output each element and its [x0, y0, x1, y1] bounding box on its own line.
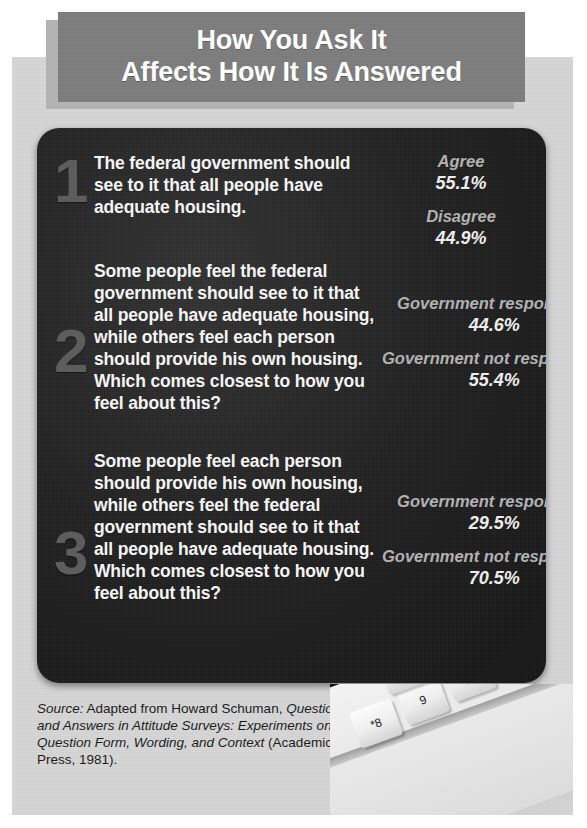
result-label: Government not responsible: [382, 547, 546, 567]
result-value: 44.6%: [382, 314, 546, 337]
question-results-3: Government responsible 29.5% Government …: [382, 440, 546, 590]
result-value: 44.9%: [382, 227, 540, 250]
result-group: Disagree 44.9%: [382, 207, 540, 249]
result-group: Government responsible 44.6%: [382, 294, 546, 336]
question-text-1: The federal government should see to it …: [94, 142, 382, 218]
questions-panel: 1 The federal government should see to i…: [37, 128, 546, 683]
infographic-figure: How You Ask It Affects How It Is Answere…: [0, 0, 587, 828]
key-0[interactable]: )0: [443, 684, 497, 702]
result-group: Government responsible 29.5%: [382, 492, 546, 534]
title-line-2: Affects How It Is Answered: [121, 57, 461, 87]
result-label: Government responsible: [382, 492, 546, 512]
source-citation: Source: Adapted from Howard Schuman, Que…: [37, 700, 347, 768]
result-group: Government not responsible 55.4%: [382, 349, 546, 391]
result-value: 70.5%: [382, 567, 546, 590]
key-9[interactable]: 9: [396, 684, 450, 726]
question-text-3: Some people feel each person should prov…: [94, 440, 382, 604]
source-attribution: Adapted from Howard Schuman,: [84, 701, 287, 716]
question-numeral-1: 1: [37, 142, 94, 211]
question-numeral-3: 3: [37, 440, 94, 583]
result-label: Disagree: [382, 207, 540, 227]
result-group: Government not responsible 70.5%: [382, 547, 546, 589]
question-results-2: Government responsible 44.6% Government …: [382, 250, 546, 392]
result-group: Agree 55.1%: [382, 152, 540, 194]
question-block-3: 3 Some people feel each person should pr…: [37, 440, 546, 604]
question-text-2: Some people feel the federal government …: [94, 250, 382, 414]
title-banner: How You Ask It Affects How It Is Answere…: [58, 12, 525, 102]
question-block-2: 2 Some people feel the federal governmen…: [37, 250, 546, 414]
result-value: 55.1%: [382, 172, 540, 195]
page-title: How You Ask It Affects How It Is Answere…: [121, 25, 461, 89]
result-label: Agree: [382, 152, 540, 172]
source-lead-label: Source:: [37, 701, 84, 716]
question-results-1: Agree 55.1% Disagree 44.9%: [382, 142, 546, 250]
result-label: Government responsible: [382, 294, 546, 314]
question-block-1: 1 The federal government should see to i…: [37, 142, 546, 250]
result-value: 55.4%: [382, 369, 546, 392]
keyboard-photo: *8 9 )0 P O - + delete [: [330, 684, 573, 815]
question-numeral-2: 2: [37, 250, 94, 381]
result-label: Government not responsible: [382, 349, 546, 369]
result-value: 29.5%: [382, 512, 546, 535]
title-line-1: How You Ask It: [196, 25, 386, 55]
